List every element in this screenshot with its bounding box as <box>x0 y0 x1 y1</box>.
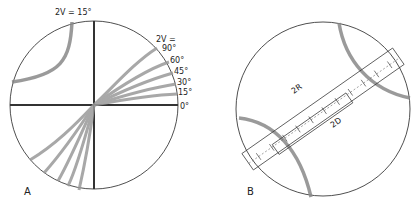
isogyre-fan-lower <box>30 105 94 190</box>
panel-a: 2V = 15° 2V = 90° 60° 45° 30° 15° 0° A <box>10 8 192 197</box>
label-angle-30: 30° <box>177 78 191 87</box>
panel-label-a: A <box>24 186 31 197</box>
label-angle-90: 90° <box>162 44 176 53</box>
panel-b: 2R 2D B <box>236 22 410 197</box>
hyperbola-2v15 <box>12 22 72 82</box>
label-angle-15: 15° <box>178 88 192 97</box>
figure-canvas: 2V = 15° 2V = 90° 60° 45° 30° 15° 0° A <box>0 0 417 202</box>
panel-label-b: B <box>247 186 254 197</box>
label-2v-15: 2V = 15° <box>55 8 92 17</box>
isogyre-fan-upper <box>94 48 177 105</box>
label-2v-header: 2V = <box>156 35 176 44</box>
label-angle-0: 0° <box>180 102 189 111</box>
label-2r: 2R <box>290 82 304 96</box>
label-angle-60: 60° <box>170 56 184 65</box>
micrometer-scale <box>242 48 405 172</box>
label-angle-45: 45° <box>174 67 188 76</box>
